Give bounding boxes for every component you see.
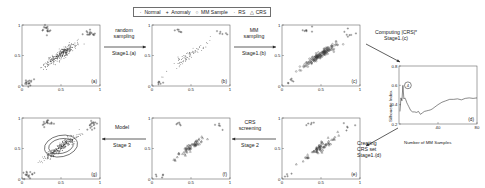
data-point bbox=[59, 48, 60, 49]
data-point bbox=[74, 45, 75, 46]
data-point bbox=[49, 153, 50, 154]
data-point bbox=[198, 139, 200, 141]
data-point bbox=[62, 55, 63, 56]
data-point bbox=[82, 33, 84, 35]
data-point bbox=[59, 62, 60, 63]
data-point bbox=[345, 129, 347, 131]
data-point bbox=[60, 150, 61, 151]
data-point bbox=[47, 64, 48, 65]
data-point bbox=[69, 48, 70, 49]
data-point bbox=[161, 176, 163, 178]
data-point bbox=[60, 145, 61, 146]
data-point bbox=[195, 52, 196, 53]
data-point bbox=[68, 140, 69, 141]
data-point bbox=[50, 159, 51, 160]
data-point bbox=[307, 66, 309, 68]
data-point bbox=[67, 54, 68, 55]
panel-e-label: (e) bbox=[351, 172, 357, 177]
data-point bbox=[89, 29, 91, 31]
data-point bbox=[68, 141, 69, 142]
data-point bbox=[44, 156, 45, 157]
data-point bbox=[182, 58, 183, 59]
data-point bbox=[44, 160, 45, 161]
data-point bbox=[58, 148, 59, 149]
data-point bbox=[53, 151, 54, 152]
data-point bbox=[89, 127, 91, 129]
data-point bbox=[61, 52, 62, 53]
data-point bbox=[305, 124, 307, 126]
arrow-label-crs-screening-top: CRSscreening bbox=[224, 120, 276, 132]
data-point bbox=[53, 155, 54, 156]
data-point bbox=[70, 49, 71, 50]
data-point bbox=[55, 60, 56, 61]
data-point bbox=[70, 46, 71, 47]
data-point bbox=[84, 44, 85, 45]
data-point bbox=[77, 44, 78, 45]
data-point bbox=[66, 54, 67, 55]
data-point bbox=[60, 51, 61, 52]
data-point bbox=[53, 150, 54, 151]
data-point bbox=[179, 62, 180, 63]
data-point bbox=[33, 78, 35, 80]
data-point bbox=[68, 46, 69, 47]
arrow-label-random-sampling-top: randomsampling bbox=[98, 28, 150, 40]
data-point bbox=[59, 147, 60, 148]
data-point bbox=[59, 57, 60, 58]
data-point bbox=[307, 122, 309, 124]
data-point bbox=[43, 158, 44, 159]
data-point bbox=[69, 46, 70, 47]
data-point bbox=[51, 63, 52, 64]
data-point bbox=[160, 83, 162, 85]
data-point bbox=[65, 146, 66, 147]
data-point bbox=[163, 77, 164, 78]
data-point bbox=[284, 175, 286, 177]
data-point bbox=[192, 52, 193, 53]
data-point bbox=[198, 49, 199, 50]
data-point bbox=[60, 53, 61, 54]
data-point bbox=[47, 28, 49, 30]
data-point bbox=[184, 57, 185, 58]
data-point bbox=[66, 52, 67, 53]
data-point bbox=[334, 136, 336, 138]
data-point bbox=[52, 55, 53, 56]
data-point bbox=[192, 51, 193, 52]
data-point bbox=[186, 53, 187, 54]
data-point bbox=[67, 49, 68, 50]
data-point bbox=[54, 56, 55, 57]
data-point bbox=[176, 156, 178, 158]
data-point bbox=[45, 158, 46, 159]
data-point bbox=[58, 55, 59, 56]
panel-d-ylabel: Silhouette Index bbox=[388, 91, 393, 123]
data-point bbox=[221, 33, 223, 35]
data-point bbox=[68, 143, 69, 144]
data-point bbox=[185, 60, 186, 61]
data-point bbox=[56, 53, 57, 54]
data-point bbox=[71, 47, 72, 48]
data-point bbox=[62, 150, 63, 151]
data-point bbox=[302, 29, 304, 31]
data-point bbox=[322, 149, 324, 151]
data-point bbox=[306, 64, 308, 66]
data-point bbox=[53, 61, 54, 62]
data-point bbox=[66, 53, 67, 54]
data-point bbox=[60, 148, 61, 149]
data-point bbox=[188, 144, 190, 146]
data-point bbox=[67, 51, 68, 52]
data-point bbox=[64, 143, 65, 144]
data-point bbox=[218, 124, 220, 126]
data-point bbox=[210, 36, 211, 37]
arrow-label-model-bottom: Stage 3 bbox=[96, 143, 148, 149]
axis-tick-label: 40 bbox=[436, 125, 441, 130]
axis-tick-label: 0.5 bbox=[58, 87, 65, 92]
data-point bbox=[65, 143, 66, 144]
data-point bbox=[54, 56, 55, 57]
pipeline-figure: · Normal + Anomaly ○ MM Sample · RS △ CR… bbox=[0, 0, 485, 188]
axis-tick-label: 0.5 bbox=[14, 146, 21, 151]
data-point bbox=[71, 43, 72, 44]
data-point bbox=[311, 31, 313, 33]
data-point bbox=[50, 59, 51, 60]
data-point bbox=[64, 146, 65, 147]
panel-g-label: (g) bbox=[91, 172, 97, 177]
data-point bbox=[214, 124, 216, 126]
data-point bbox=[166, 71, 167, 72]
